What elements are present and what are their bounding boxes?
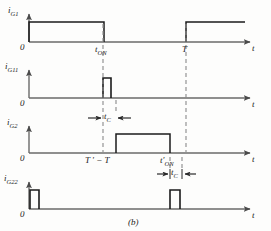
axis-group-ig1 — [29, 14, 250, 42]
signal-label-ig22: iG22 — [4, 174, 18, 185]
axis-group-ig22 — [29, 182, 250, 209]
waveform-ig11 — [103, 78, 111, 98]
tick-label-period-T: T — [182, 45, 187, 54]
waveform-figure: iG1 iG11 iG2 iG22 0 0 0 0 t t t t tON T … — [0, 0, 271, 231]
signal-label-ig1: iG1 — [8, 6, 18, 17]
waveform-canvas — [0, 0, 271, 231]
time-axis-label-ig22: t — [252, 211, 255, 220]
waveform-ig1 — [29, 22, 245, 42]
origin-label-ig22: 0 — [20, 210, 25, 219]
origin-label-ig2: 0 — [20, 154, 25, 163]
waveform-ig2 — [116, 134, 170, 153]
time-axis-label-ig2: t — [252, 155, 255, 164]
origin-label-ig11: 0 — [20, 99, 25, 108]
time-axis-label-ig11: t — [252, 100, 255, 109]
dimension-label-tc-upper: tC — [104, 112, 111, 123]
tick-label-t-prime-minus-t: T ' − T — [85, 156, 110, 165]
time-axis-label-ig1: t — [252, 44, 255, 53]
tick-label-t-on-prime: t′ON — [160, 156, 174, 167]
signal-label-ig11: iG11 — [5, 62, 18, 73]
axis-group-ig11 — [29, 70, 250, 98]
waveform-ig22 — [30, 190, 180, 209]
signal-label-ig2: iG2 — [7, 118, 17, 129]
tick-label-t-on: tON — [95, 45, 107, 56]
origin-label-ig1: 0 — [20, 43, 25, 52]
dimension-label-tc-lower: tC — [171, 168, 178, 179]
axis-group-ig2 — [29, 126, 250, 153]
figure-caption: (b) — [128, 218, 139, 227]
